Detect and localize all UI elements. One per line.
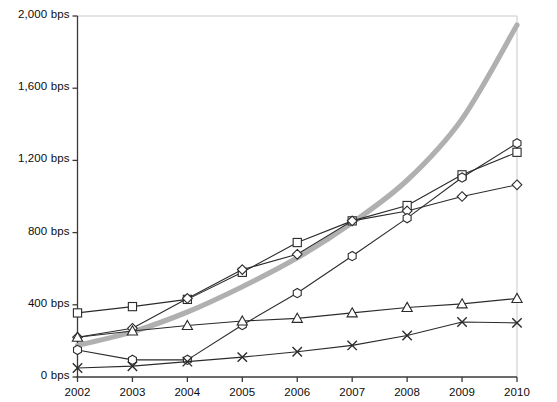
- data-point-square: [128, 303, 136, 311]
- data-point-hexagon: [458, 173, 466, 182]
- data-point-hexagon: [293, 288, 301, 297]
- y-axis-tick-label: 0 bps: [41, 369, 70, 381]
- data-point-cross: [402, 331, 411, 340]
- data-point-triangle: [512, 293, 522, 302]
- data-point-square: [513, 148, 521, 156]
- data-point-square: [293, 238, 301, 246]
- data-point-hexagon: [74, 345, 82, 354]
- x-axis-tick-label: 2007: [326, 386, 378, 398]
- series-series-cross: [73, 317, 522, 372]
- y-axis-tick-label: 400 bps: [28, 297, 70, 309]
- line-chart: 0 bps400 bps800 bps1,200 bps1,600 bps2,0…: [0, 0, 557, 402]
- x-axis-tick-label: 2006: [271, 386, 323, 398]
- y-axis-tick-label: 1,200 bps: [18, 152, 69, 164]
- y-axis-tick-label: 1,600 bps: [18, 80, 69, 92]
- x-axis-tick-label: 2002: [52, 386, 104, 398]
- y-axis-tick-label: 2,000 bps: [18, 8, 69, 20]
- x-axis-tick-label: 2009: [436, 386, 488, 398]
- data-point-hexagon: [513, 139, 521, 148]
- x-axis-tick-label: 2005: [216, 386, 268, 398]
- data-point-diamond: [512, 180, 522, 190]
- x-axis-tick-label: 2008: [381, 386, 433, 398]
- series-series-triangle: [72, 293, 522, 341]
- data-point-diamond: [457, 192, 467, 202]
- data-point-hexagon: [403, 214, 411, 223]
- x-axis-tick-label: 2004: [161, 386, 213, 398]
- chart-plot-area: [0, 0, 557, 402]
- data-point-hexagon: [348, 251, 356, 260]
- data-point-square: [73, 309, 81, 317]
- y-axis-tick-label: 800 bps: [28, 225, 70, 237]
- x-axis-tick-label: 2003: [106, 386, 158, 398]
- x-axis-tick-label: 2010: [491, 386, 543, 398]
